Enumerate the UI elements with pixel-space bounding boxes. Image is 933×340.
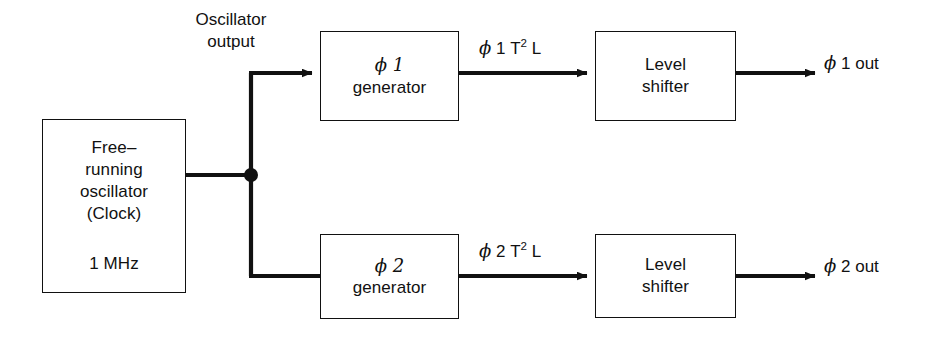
oscillator-frequency-label: 1 MHz [89,253,139,275]
phi2-generator-line2: generator [353,277,427,299]
label-phi1-t2l: ϕ 1 T2 L [479,36,541,60]
label-oscillator-output: Oscillator output [168,9,294,53]
block-level-shifter-1: Level shifter [595,31,736,121]
junction-dot [244,168,258,182]
level-shifter-1-line2: shifter [642,76,689,98]
level-shifter-1-line1: Level [645,54,686,76]
block-phi1-generator: ϕ 1 generator [320,31,459,121]
block-phi2-generator: ϕ 2 generator [320,234,459,319]
phi1-generator-line1: ϕ 1 [375,53,405,76]
oscillator-main-label: Free– running oscillator (Clock) [80,137,148,225]
block-diagram: Free– running oscillator (Clock) 1 MHz ϕ… [0,0,933,340]
phi1-generator-line2: generator [353,77,427,99]
label-phi2-t2l: ϕ 2 T2 L [479,239,541,263]
label-phi2-out: ϕ 2 out [824,254,879,278]
label-phi1-out: ϕ 1 out [824,51,879,75]
level-shifter-2-line2: shifter [642,276,689,298]
block-free-running-oscillator: Free– running oscillator (Clock) 1 MHz [42,119,186,293]
level-shifter-2-line1: Level [645,254,686,276]
block-level-shifter-2: Level shifter [595,234,736,318]
phi2-generator-line1: ϕ 2 [375,254,405,277]
